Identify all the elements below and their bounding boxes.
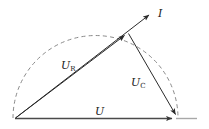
label-total-voltage-symbol: U	[95, 105, 104, 118]
vector-i-current	[16, 15, 150, 118]
label-resistor-voltage-subscript: R	[70, 65, 75, 73]
diagram-canvas	[0, 0, 209, 129]
label-capacitor-voltage: UC	[131, 73, 146, 90]
label-resistor-voltage: UR	[61, 56, 76, 73]
label-current-symbol: I	[158, 7, 162, 20]
phasor-diagram-figure: I UR UC U	[0, 0, 209, 129]
label-capacitor-voltage-subscript: C	[140, 82, 145, 90]
label-total-voltage: U	[95, 102, 104, 119]
label-current: I	[158, 4, 162, 21]
label-capacitor-voltage-symbol: U	[131, 76, 140, 89]
label-resistor-voltage-symbol: U	[61, 59, 70, 72]
